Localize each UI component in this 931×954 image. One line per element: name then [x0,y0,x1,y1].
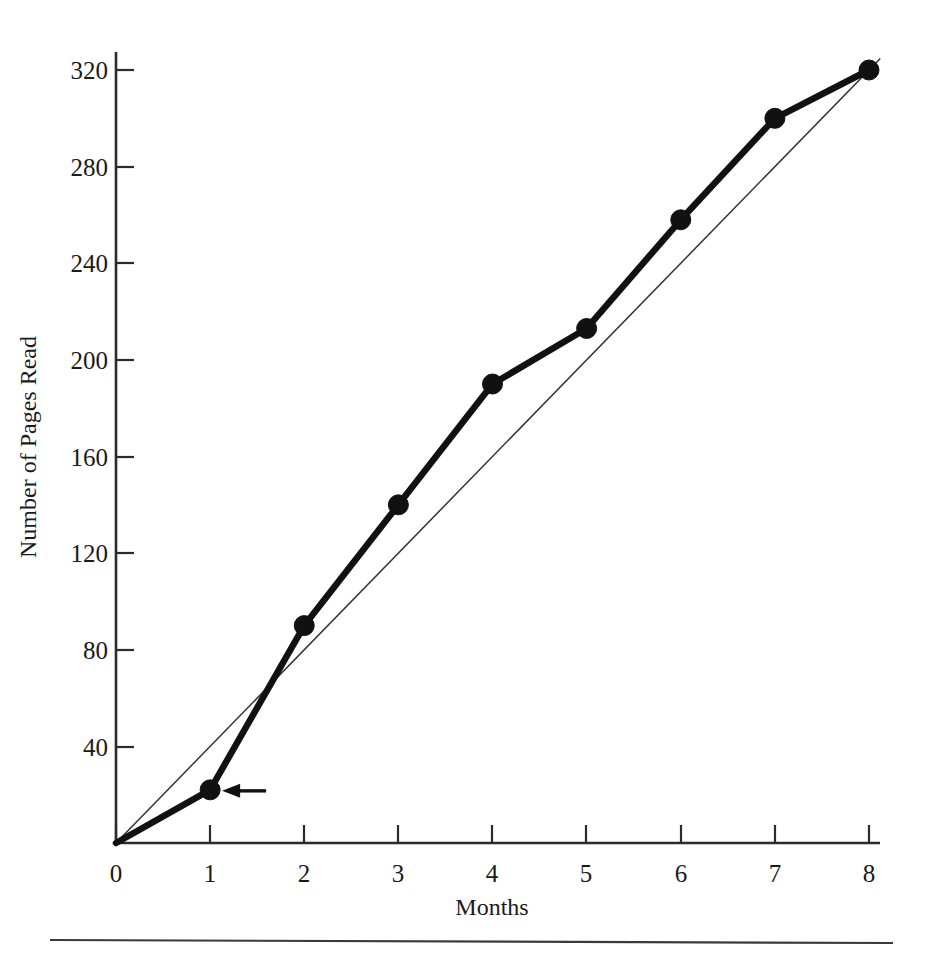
reference-line-constant-rate [116,58,880,843]
data-point-month-7 [765,108,785,128]
data-point-month-2 [294,616,314,636]
y-tick-label-80: 80 [83,637,108,664]
x-tick-label-7: 7 [769,860,782,887]
data-point-month-4 [483,374,503,394]
x-axis-ticks [116,825,869,843]
y-tick-label-320: 320 [71,57,109,84]
data-point-month-3 [388,495,408,515]
data-point-month-1 [200,780,220,800]
x-axis-title: Months [455,894,528,920]
x-tick-label-6: 6 [675,860,688,887]
data-point-month-5 [577,318,597,338]
chart-canvas: 320 280 240 200 160 120 80 40 0 1 2 3 4 … [0,0,931,954]
y-tick-label-120: 120 [71,540,109,567]
x-tick-label-5: 5 [580,860,593,887]
x-tick-label-8: 8 [863,860,876,887]
figure-container: 320 280 240 200 160 120 80 40 0 1 2 3 4 … [0,0,931,954]
data-point-month-8 [859,60,879,80]
x-tick-label-1: 1 [204,860,217,887]
data-point-markers [200,60,879,800]
y-tick-label-200: 200 [71,347,109,374]
x-tick-label-3: 3 [392,860,405,887]
x-tick-label-4: 4 [486,860,499,887]
footer-divider [50,940,893,943]
annotation-arrow [222,784,266,798]
y-axis-title: Number of Pages Read [15,336,41,558]
arrow-head-icon [222,784,240,798]
y-tick-label-240: 240 [71,250,109,277]
y-tick-label-160: 160 [71,444,109,471]
x-tick-label-0: 0 [110,860,123,887]
y-axis-ticks [116,70,134,747]
y-tick-label-280: 280 [71,154,109,181]
x-tick-label-2: 2 [298,860,311,887]
y-tick-label-40: 40 [83,734,108,761]
data-point-month-6 [671,210,691,230]
